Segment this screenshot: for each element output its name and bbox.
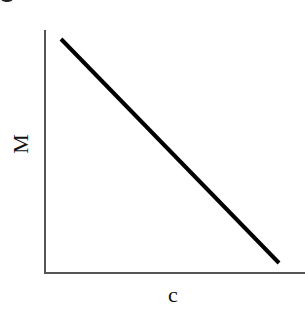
- data-line: [61, 39, 279, 263]
- y-axis-label: M: [8, 131, 34, 157]
- plot-area: [0, 0, 305, 309]
- x-axis-label: c: [160, 283, 186, 307]
